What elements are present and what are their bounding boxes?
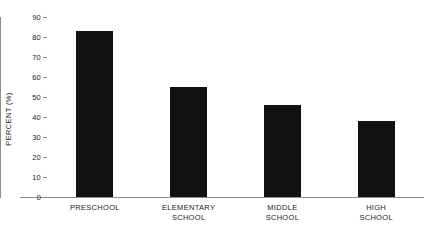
bars-layer	[0, 17, 431, 197]
x-axis-line	[20, 197, 424, 198]
bar	[358, 121, 395, 197]
bar	[76, 31, 113, 197]
x-category-label: HIGHSCHOOL	[316, 203, 431, 222]
bar-chart: PERCENT (%) 0102030405060708090 PRESCHOO…	[0, 0, 431, 238]
y-tick-mark	[43, 197, 47, 198]
bar	[170, 87, 207, 197]
bar	[264, 105, 301, 197]
